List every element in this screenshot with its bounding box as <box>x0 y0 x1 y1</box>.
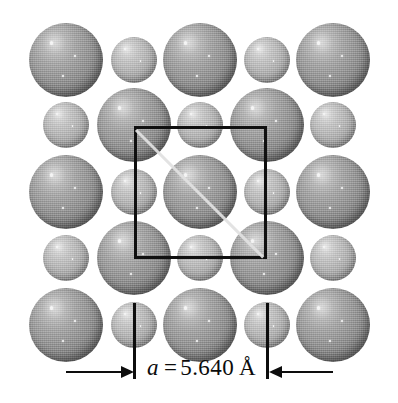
sphere-highlight <box>140 60 142 62</box>
sphere-highlight <box>62 207 64 209</box>
sphere-highlight <box>257 313 260 316</box>
sphere-highlight <box>130 140 132 142</box>
sphere-highlight <box>130 273 132 275</box>
lattice-parameter-equals: = <box>161 355 180 380</box>
sphere-highlight <box>317 41 320 44</box>
sphere-highlight <box>317 173 320 176</box>
sphere-highlight <box>275 120 277 122</box>
sphere-highlight <box>74 55 76 57</box>
sphere-highlight <box>263 273 265 275</box>
sphere-highlight <box>329 75 331 77</box>
sphere-highlight <box>184 41 187 44</box>
sphere-highlight <box>273 325 275 327</box>
sphere-highlight <box>196 75 198 77</box>
sphere-highlight <box>329 207 331 209</box>
atom-sphere-small <box>43 235 89 281</box>
sphere-highlight <box>50 41 53 44</box>
sphere-highlight <box>62 75 64 77</box>
atom-sphere-large <box>296 288 370 362</box>
crystal-structure-figure: a=5.640Å <box>0 0 398 403</box>
atom-sphere-large <box>296 155 370 229</box>
atom-sphere-large <box>163 23 237 97</box>
sphere-highlight <box>124 313 127 316</box>
sphere-highlight <box>124 48 127 51</box>
sphere-highlight <box>140 325 142 327</box>
sphere-highlight <box>72 258 74 260</box>
sphere-highlight <box>275 253 277 255</box>
dimension-line-right <box>281 371 333 373</box>
sphere-highlight <box>118 239 121 242</box>
sphere-highlight <box>142 120 144 122</box>
sphere-highlight <box>317 306 320 309</box>
lattice-parameter-value: 5.640 <box>180 355 234 380</box>
sphere-highlight <box>74 187 76 189</box>
atom-sphere-small <box>244 37 290 83</box>
sphere-highlight <box>341 55 343 57</box>
atom-sphere-large <box>29 288 103 362</box>
atom-sphere-small <box>310 235 356 281</box>
sphere-highlight <box>257 48 260 51</box>
atom-sphere-large <box>296 23 370 97</box>
atom-sphere-small <box>310 102 356 148</box>
lattice-parameter-unit: Å <box>234 355 256 380</box>
sphere-highlight <box>50 306 53 309</box>
sphere-highlight <box>118 106 121 109</box>
unit-cell-outline <box>134 126 267 259</box>
sphere-highlight <box>208 55 210 57</box>
sphere-highlight <box>184 306 187 309</box>
atom-sphere-small <box>111 37 157 83</box>
sphere-highlight <box>251 106 254 109</box>
sphere-highlight <box>208 320 210 322</box>
sphere-highlight <box>273 60 275 62</box>
sphere-highlight <box>74 320 76 322</box>
sphere-highlight <box>341 187 343 189</box>
sphere-highlight <box>273 192 275 194</box>
sphere-highlight <box>339 125 341 127</box>
sphere-highlight <box>196 340 198 342</box>
atom-sphere-small <box>43 102 89 148</box>
atom-sphere-large <box>29 155 103 229</box>
unit-cell-diagonal <box>135 129 264 258</box>
sphere-highlight <box>329 340 331 342</box>
sphere-highlight <box>56 246 59 249</box>
lattice-parameter-label: a=5.640Å <box>147 355 256 381</box>
sphere-highlight <box>62 340 64 342</box>
atom-sphere-large <box>29 23 103 97</box>
sphere-highlight <box>124 180 127 183</box>
sphere-highlight <box>341 320 343 322</box>
dimension-arrow-right-icon <box>121 366 134 378</box>
dimension-line-left <box>66 371 122 373</box>
sphere-highlight <box>339 258 341 260</box>
lattice-parameter-symbol: a <box>147 355 161 380</box>
sphere-highlight <box>72 125 74 127</box>
sphere-highlight <box>323 113 326 116</box>
sphere-highlight <box>50 173 53 176</box>
sphere-highlight <box>56 113 59 116</box>
dimension-arrow-left-icon <box>269 366 282 378</box>
sphere-highlight <box>190 113 193 116</box>
atom-sphere-large <box>163 288 237 362</box>
sphere-highlight <box>323 246 326 249</box>
